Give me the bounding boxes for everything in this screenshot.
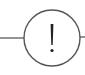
diagram-canvas: !: [0, 0, 85, 75]
event-node[interactable]: !: [0, 0, 80, 66]
